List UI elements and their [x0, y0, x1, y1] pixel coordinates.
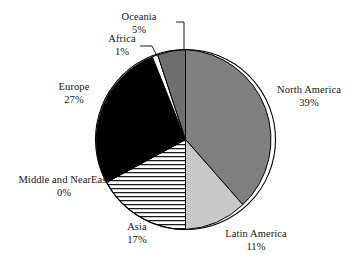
pie-label-europe-value: 27% — [44, 94, 104, 107]
pie-label-africa-value: 1% — [86, 46, 158, 59]
pie-label-latin-america-name: Latin America — [210, 228, 302, 241]
pie-label-africa-name: Africa — [86, 33, 158, 46]
pie-label-europe-name: Europe — [44, 81, 104, 94]
pie-label-africa: Africa 1% — [86, 33, 158, 58]
pie-label-europe: Europe 27% — [44, 81, 104, 106]
pie-label-north-america-value: 39% — [264, 97, 354, 110]
leader-line-oceania — [176, 22, 184, 51]
pie-label-middle-and-neareast-name: Middle and NearEast — [2, 174, 126, 187]
pie-label-middle-and-neareast-value: 0% — [2, 187, 126, 200]
pie-chart-canvas — [0, 0, 354, 263]
pie-label-north-america-name: North America — [264, 84, 354, 97]
pie-label-latin-america: Latin America 11% — [210, 228, 302, 253]
pie-label-latin-america-value: 11% — [210, 241, 302, 254]
pie-label-north-america: North America 39% — [264, 84, 354, 109]
pie-label-asia-value: 17% — [114, 234, 160, 247]
pie-label-asia: Asia 17% — [114, 221, 160, 246]
pie-label-asia-name: Asia — [114, 221, 160, 234]
pie-label-oceania-name: Oceania — [101, 11, 177, 24]
pie-label-middle-and-neareast: Middle and NearEast 0% — [2, 174, 126, 199]
pie-chart-figure: Oceania 5% Africa 1% North America 39% L… — [0, 0, 354, 263]
